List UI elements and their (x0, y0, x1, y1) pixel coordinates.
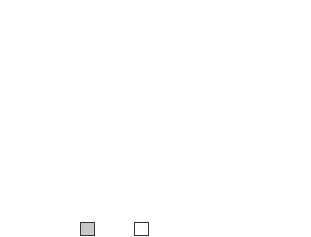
legend-swatch-1985 (80, 222, 95, 236)
legend-swatch-2025 (134, 222, 149, 236)
population-pyramid-plot (0, 0, 311, 237)
